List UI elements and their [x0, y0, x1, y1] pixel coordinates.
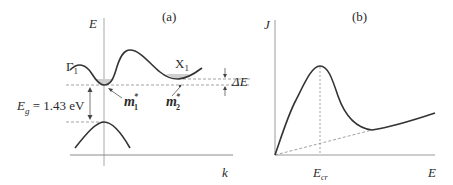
panel-b: J (b) Ecr E [264, 9, 436, 182]
mass1-pointer [108, 88, 122, 98]
ohmic-dashed-line [275, 130, 372, 155]
band-gap-arrow [88, 87, 93, 120]
gamma-valley-label: Γ1 [66, 59, 78, 76]
mass1-label: m*1 [124, 92, 139, 112]
figure: E (a) k Γ1 X1 m*1 m*2 ΔE Eg = 1.43 eV J … [0, 0, 453, 185]
band-gap-label: Eg = 1.43 eV [16, 98, 85, 116]
mass2-label: m*2 [166, 92, 181, 112]
k-axis-label: k [222, 165, 228, 180]
current-density-label: J [264, 17, 271, 32]
panel-b-title: (b) [352, 9, 367, 24]
panel-a-title: (a) [162, 9, 176, 24]
panel-a: E (a) k Γ1 X1 m*1 m*2 ΔE Eg = 1.43 eV [16, 9, 250, 180]
energy-axis-label: E [88, 16, 97, 31]
x-valley-label: X1 [175, 56, 189, 73]
valence-band-curve [75, 122, 130, 148]
delta-e-label: ΔE [231, 74, 248, 89]
delta-e-arrows [223, 68, 227, 96]
field-axis-label: E [427, 165, 436, 180]
current-field-curve [275, 66, 435, 155]
critical-field-label: Ecr [312, 165, 329, 182]
